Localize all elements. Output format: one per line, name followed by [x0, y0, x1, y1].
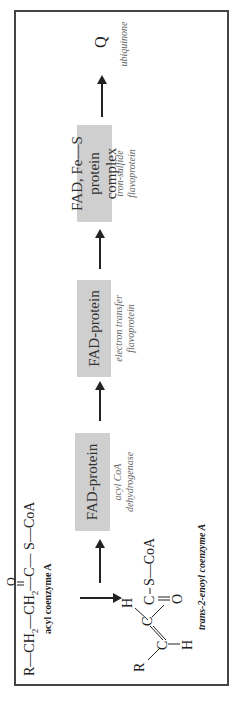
step2-caption-line2: flavoprotein	[125, 280, 137, 377]
step2-caption: electron transfer flavoprotein	[113, 280, 137, 377]
ubiquinone-symbol: Q	[92, 36, 110, 48]
atom-s-coa: S—CoA	[142, 538, 158, 586]
step1-box-label: FAD-protein	[84, 444, 101, 520]
step2-caption-line1: electron transfer	[113, 280, 125, 377]
step1-box: FAD-protein	[75, 433, 110, 531]
arrow-step1-to-step2	[99, 383, 101, 421]
arrow-step3-to-q	[101, 77, 103, 117]
step2-box: FAD-protein	[77, 280, 111, 377]
atom-r: R	[132, 663, 148, 672]
step3-box: FAD, Fe—S protein complex	[77, 125, 112, 222]
ubiquinone-label: ubiquinone	[118, 18, 130, 70]
atom-h-bottom: H	[180, 640, 196, 650]
step2-box-label: FAD-protein	[86, 290, 103, 366]
step1-caption: acyl CoA dehydrogenase	[112, 433, 136, 531]
arrow-step2-to-step3	[99, 231, 101, 269]
step3-caption-line1: iron-sulfide	[114, 125, 126, 222]
atom-c1: C	[155, 641, 171, 650]
step3-caption-line2: flavoprotein	[126, 125, 138, 222]
enoyl-coa-label: trans-2-enoyl coenzyme A	[196, 524, 207, 630]
step3-caption: iron-sulfide flavoprotein	[114, 125, 138, 222]
atom-o: O	[170, 594, 186, 604]
atom-c3: C	[142, 596, 158, 605]
atom-c2: C	[140, 617, 156, 626]
step1-caption-line1: acyl CoA	[112, 433, 124, 531]
step1-caption-line2: dehydrogenase	[124, 433, 136, 531]
atom-h-top: H	[120, 598, 136, 608]
diagram-canvas: R—CH2—CH2—C— S—CoA O acyl coenzyme A R C…	[0, 0, 240, 706]
step3-box-line1: FAD, Fe—S	[69, 136, 86, 211]
